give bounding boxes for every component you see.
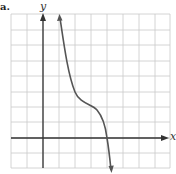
x-axis-arrow-icon <box>161 135 169 141</box>
curve-arrow-bottom-icon <box>109 166 114 174</box>
graph-plot <box>0 0 176 174</box>
part-label: a. <box>0 2 10 12</box>
x-axis-label: x <box>170 131 176 142</box>
function-curve <box>60 18 111 170</box>
axes <box>11 13 169 168</box>
grid-lines <box>11 14 170 168</box>
y-axis-label: y <box>40 1 46 12</box>
curve-arrow-top-icon <box>57 14 63 21</box>
